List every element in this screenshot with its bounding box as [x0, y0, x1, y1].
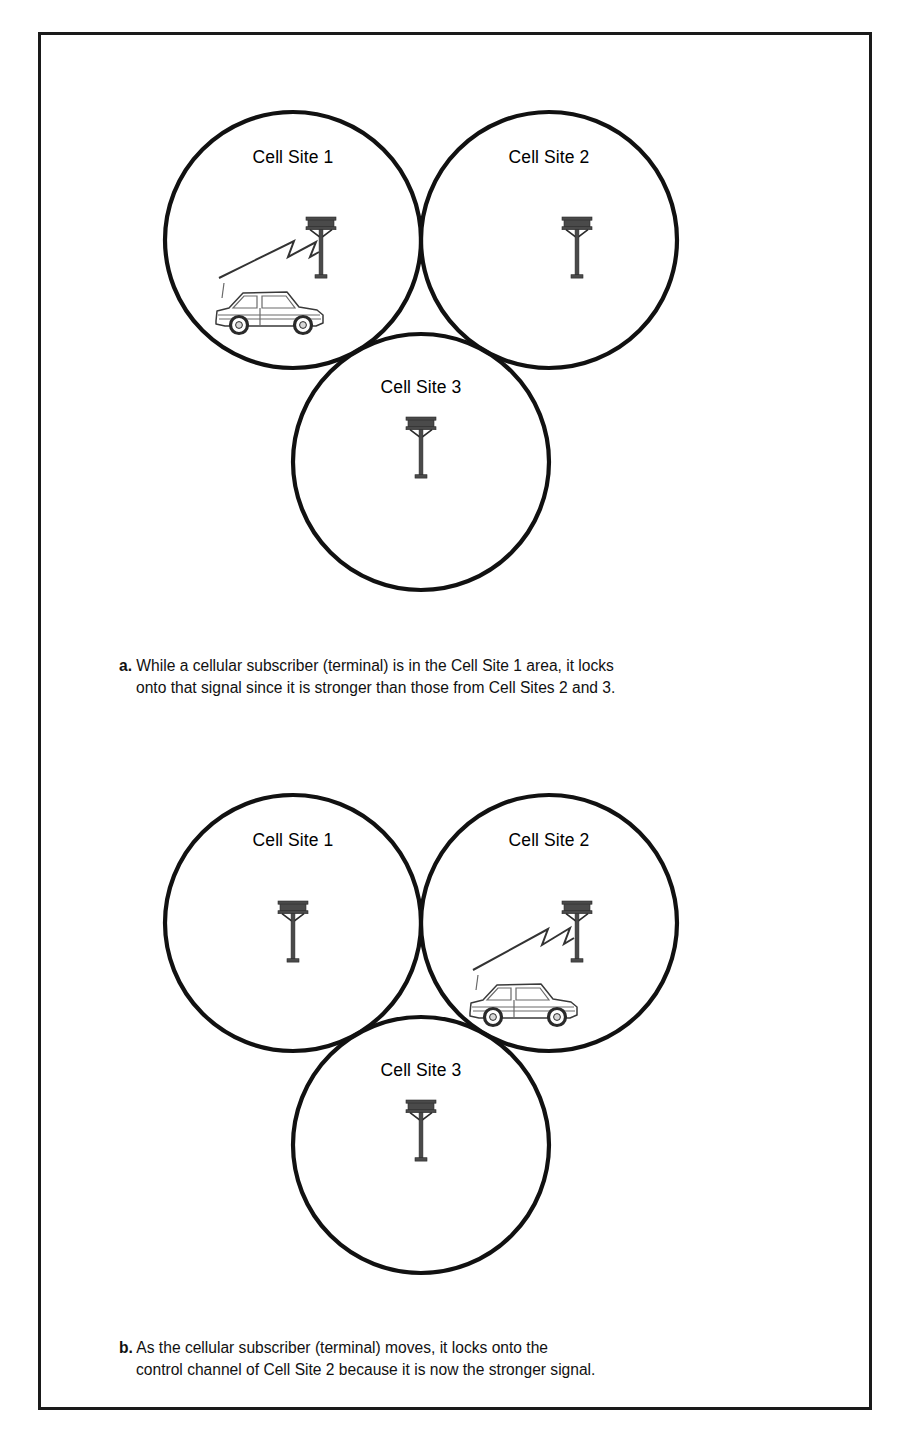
panel-b: Cell Site 1 Cell Site 2 Cell Site 3 — [41, 725, 869, 1407]
radio-signal-bolt-icon-a — [219, 241, 319, 278]
cell-label-2: Cell Site 2 — [509, 147, 590, 167]
cell-label-2: Cell Site 2 — [509, 830, 590, 850]
radio-signal-bolt-icon-b — [473, 928, 574, 970]
cell-tower-icon-3 — [406, 1100, 436, 1161]
caption-a-line-1: While a cellular subscriber (terminal) i… — [136, 657, 614, 674]
caption-b: b. As the cellular subscriber (terminal)… — [119, 1337, 809, 1381]
panel-a: Cell Site 1 Cell Site 2 Cell Site 3 — [41, 35, 869, 725]
cell-coverage-diagram-b: Cell Site 1 Cell Site 2 Cell Site 3 — [41, 725, 875, 1335]
cell-tower-icon-2 — [562, 217, 592, 278]
cell-tower-icon-1 — [278, 901, 308, 962]
cell-tower-icon-1 — [306, 217, 336, 278]
car-icon-a — [216, 283, 323, 334]
caption-b-line-1: As the cellular subscriber (terminal) mo… — [136, 1339, 548, 1356]
caption-marker-a: a. — [119, 657, 132, 674]
caption-a-line-2: onto that signal since it is stronger th… — [136, 677, 809, 699]
caption-b-line-2: control channel of Cell Site 2 because i… — [136, 1359, 809, 1381]
cell-label-1: Cell Site 1 — [253, 830, 334, 850]
cell-label-1: Cell Site 1 — [253, 147, 334, 167]
caption-marker-b: b. — [119, 1339, 133, 1356]
cell-tower-icon-2 — [562, 901, 592, 962]
car-icon-b — [470, 975, 577, 1026]
cell-coverage-diagram-a: Cell Site 1 Cell Site 2 Cell Site 3 — [41, 35, 875, 655]
cell-label-3: Cell Site 3 — [381, 1060, 462, 1080]
figure-border: Cell Site 1 Cell Site 2 Cell Site 3 — [38, 32, 872, 1410]
caption-a: a. While a cellular subscriber (terminal… — [119, 655, 809, 699]
cell-tower-icon-3 — [406, 417, 436, 478]
cell-label-3: Cell Site 3 — [381, 377, 462, 397]
